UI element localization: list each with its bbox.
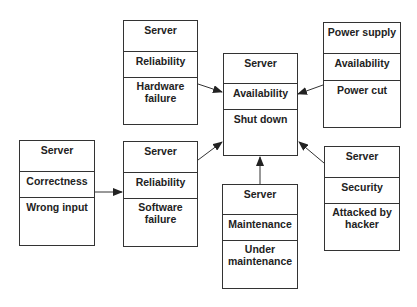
arrow-hardware-to-center [198, 84, 222, 92]
node-object: Server [224, 54, 297, 84]
node-state: Software failure [124, 199, 197, 225]
node-state: Under maintenance [223, 241, 297, 267]
node-attacked-by-hacker: Server Security Attacked by hacker [324, 146, 400, 251]
node-power-cut: Power supply Availability Power cut [323, 22, 401, 128]
arrow-software-to-center [198, 142, 222, 160]
node-attribute: Correctness [20, 172, 94, 198]
node-hardware-failure: Server Reliability Hardware failure [123, 20, 198, 125]
arrow-power-to-center [298, 85, 323, 94]
node-under-maintenance: Server Maintenance Under maintenance [222, 184, 298, 289]
node-center-shut-down: Server Availability Shut down [223, 53, 298, 156]
node-state: Attacked by hacker [325, 204, 399, 230]
node-state: Shut down [224, 110, 297, 125]
node-attribute: Availability [324, 54, 400, 80]
node-attribute: Reliability [124, 52, 197, 78]
node-wrong-input: Server Correctness Wrong input [19, 140, 95, 246]
node-attribute: Reliability [124, 173, 197, 199]
node-software-failure: Server Reliability Software failure [123, 141, 198, 247]
node-object: Power supply [324, 23, 400, 53]
node-state: Hardware failure [124, 78, 197, 104]
node-attribute: Security [325, 178, 399, 204]
node-attribute: Maintenance [223, 215, 297, 241]
node-object: Server [124, 142, 197, 172]
node-object: Server [20, 141, 94, 171]
node-state: Power cut [324, 81, 400, 96]
node-object: Server [325, 147, 399, 177]
node-object: Server [223, 185, 297, 215]
node-object: Server [124, 21, 197, 51]
node-state: Wrong input [20, 198, 94, 213]
arrow-security-to-center [299, 142, 324, 163]
node-attribute: Availability [224, 84, 297, 110]
